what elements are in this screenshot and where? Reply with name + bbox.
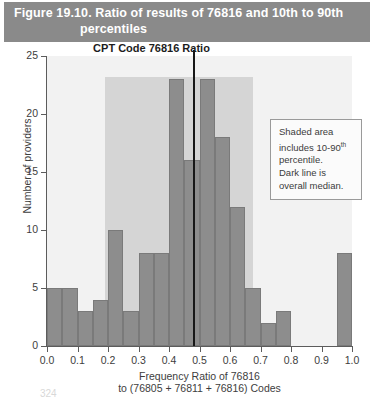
x-axis-tick-label: 0.7 [244,354,278,366]
x-axis-tick-label: 0.1 [61,354,95,366]
annotation-line-4: Dark line is [279,167,354,180]
x-axis-label-line-1: Frequency Ratio of 76816 [139,370,260,382]
x-axis-tick [108,347,109,352]
figure-title-line-2: percentiles [14,21,364,37]
histogram-bar [139,253,154,346]
x-axis-tick-label: 0.3 [122,354,156,366]
annotation-ordinal-suffix: th [341,141,346,148]
y-axis-tick-label: 25 [0,49,38,61]
x-axis-tick-label: 0.5 [183,354,217,366]
x-axis-tick [352,347,353,352]
x-axis-label-line-2: to (76805 + 76811 + 76816) Codes [47,382,352,394]
figure-title-line-1: Figure 19.10. Ratio of results of 76816 … [14,5,364,21]
y-axis-tick-label: 15 [0,165,38,177]
histogram-bar [108,230,123,346]
histogram-bar [169,79,184,346]
x-axis-tick-label: 1.0 [335,354,369,366]
y-axis-tick-label: 0 [0,339,38,351]
x-axis-tick-label: 0.0 [30,354,64,366]
x-axis-tick [200,347,201,352]
y-axis-tick-label: 5 [0,281,38,293]
page-number: 324 [40,388,57,399]
x-axis-tick-label: 0.2 [91,354,125,366]
x-axis-tick-label: 0.4 [152,354,186,366]
histogram-bar [123,311,138,346]
histogram-bar [337,253,352,346]
annotation-line-1: Shaded area [279,126,354,139]
x-axis-tick [261,347,262,352]
x-axis-tick [47,347,48,352]
histogram-bar [93,300,108,346]
x-axis-tick [322,347,323,352]
x-axis-tick [78,347,79,352]
figure-title-banner: Figure 19.10. Ratio of results of 76816 … [4,2,370,42]
annotation-line-2: includes 10-90th [279,139,354,155]
x-axis-tick-label: 0.6 [213,354,247,366]
histogram-bar [276,311,291,346]
x-axis-tick [169,347,170,352]
x-axis-tick [139,347,140,352]
y-axis-tick-label: 10 [0,223,38,235]
histogram-bar [261,323,276,346]
annotation-line-3: percentile. [279,154,354,167]
x-axis-tick [230,347,231,352]
histogram-bar [215,137,230,346]
histogram-bar [78,311,93,346]
annotation-box: Shaded area includes 10-90th percentile.… [270,119,362,200]
histogram-bar [62,288,77,346]
histogram-bar [245,288,260,346]
x-axis-tick-label: 0.9 [305,354,339,366]
annotation-line-5: overall median. [279,180,354,193]
figure-container: Figure 19.10. Ratio of results of 76816 … [0,0,378,402]
annotation-line-2-text: includes 10-90 [279,142,341,153]
x-axis-tick-label: 0.8 [274,354,308,366]
median-line [193,50,195,346]
plot-area: CPT Code 76816 Ratio [47,56,352,346]
y-axis-tick-label: 20 [0,107,38,119]
histogram-bar [47,288,62,346]
histogram-bar [230,207,245,346]
chart-inner-title: CPT Code 76816 Ratio [47,42,352,54]
x-axis-tick [291,347,292,352]
histogram-bar [154,253,169,346]
x-axis-label: Frequency Ratio of 76816 to (76805 + 768… [47,370,352,394]
histogram-bar [200,79,215,346]
